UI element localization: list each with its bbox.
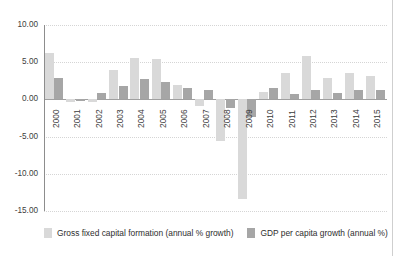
x-tick-label: 2013: [330, 110, 338, 129]
y-tick-label: 5.00: [0, 58, 38, 66]
x-tick-label: 2003: [116, 110, 124, 129]
x-tick-label: 2014: [352, 110, 360, 129]
gridline: [44, 174, 387, 175]
bar: [152, 59, 161, 99]
x-tick-label: 2009: [245, 110, 253, 129]
x-tick-label: 2008: [223, 110, 231, 129]
gridline: [44, 62, 387, 63]
bar: [290, 94, 299, 99]
bar: [161, 82, 170, 99]
legend-label: Gross fixed capital formation (annual % …: [57, 228, 233, 238]
bar: [119, 86, 128, 99]
gridline: [44, 25, 387, 26]
x-tick-label: 2011: [288, 110, 296, 128]
bar: [54, 78, 63, 100]
y-tick-label: -10.00: [0, 170, 38, 178]
legend-swatch-icon: [44, 228, 52, 238]
bar: [354, 90, 363, 99]
bar: [204, 90, 213, 100]
x-tick-label: 2007: [202, 110, 210, 129]
bar: [173, 85, 182, 100]
bar: [323, 78, 332, 100]
x-tick-label: 2015: [373, 110, 381, 129]
x-tick-label: 2005: [159, 110, 167, 129]
x-tick-label: 2000: [52, 110, 60, 129]
bar: [302, 56, 311, 100]
y-tick-label: -15.00: [0, 207, 38, 215]
bar: [45, 53, 54, 100]
plot-area: 10.005.000.00-5.00-10.00-15.00 200020012…: [44, 25, 387, 211]
bar: [97, 93, 106, 99]
bar: [333, 93, 342, 99]
bar: [345, 73, 354, 99]
x-tick-label: 2002: [95, 110, 103, 129]
x-tick-label: 2001: [73, 110, 81, 129]
bar: [88, 99, 97, 102]
bar: [130, 58, 139, 100]
x-tick-label: 2012: [309, 110, 317, 129]
bar-chart: 10.005.000.00-5.00-10.00-15.00 200020012…: [0, 0, 393, 256]
y-tick-label: -5.00: [0, 132, 38, 140]
bar: [109, 70, 118, 99]
bar: [281, 73, 290, 100]
x-tick-label: 2004: [137, 110, 145, 129]
bar: [76, 99, 85, 100]
bar: [183, 88, 192, 99]
bar: [195, 99, 204, 106]
bar: [376, 90, 385, 100]
legend-item-gross-fixed-capital-formation: Gross fixed capital formation (annual % …: [44, 228, 233, 238]
x-tick-label: 2006: [180, 110, 188, 129]
bar: [140, 79, 149, 99]
legend-item-gdp-per-capita-growth: GDP per capita growth (annual %): [247, 228, 387, 238]
x-tick-label: 2010: [266, 110, 274, 129]
y-tick-label: 10.00: [0, 21, 38, 29]
bar: [269, 88, 278, 99]
legend-swatch-icon: [247, 228, 255, 238]
bar: [259, 92, 268, 99]
bar: [66, 99, 75, 101]
legend-label: GDP per capita growth (annual %): [260, 228, 387, 238]
y-tick-label: 0.00: [0, 95, 38, 103]
bar: [311, 90, 320, 99]
chart-legend: Gross fixed capital formation (annual % …: [44, 228, 384, 238]
bar: [366, 76, 375, 100]
gridline: [44, 211, 387, 212]
bar: [226, 99, 235, 108]
